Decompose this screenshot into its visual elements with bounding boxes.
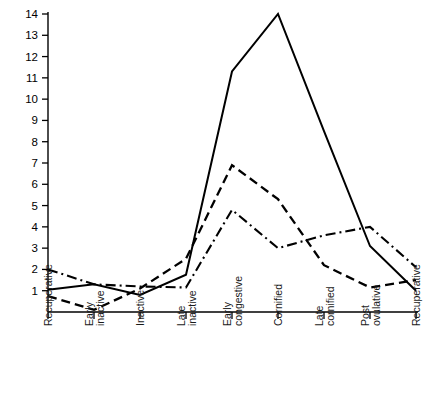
x-tick-label: Recuperative xyxy=(410,264,422,326)
x-tick-label: inactive xyxy=(94,290,106,326)
y-tick-label: 1 xyxy=(32,285,38,297)
y-tick-label: 2 xyxy=(32,263,38,275)
y-tick-label: 5 xyxy=(32,200,38,212)
line-chart-canvas: 1234567891011121314 RecuperativeEarlyina… xyxy=(0,0,430,409)
x-tick-label: ovulative xyxy=(370,284,382,326)
y-tick-label: 13 xyxy=(25,29,38,41)
y-tick-label: 10 xyxy=(25,93,38,105)
x-tick-label: congestive xyxy=(232,276,244,326)
x-tick-label: cornified xyxy=(324,286,336,326)
x-tick-label: Inactive xyxy=(134,290,146,326)
y-tick-label: 12 xyxy=(25,51,38,63)
y-tick-label: 4 xyxy=(32,221,39,233)
x-tick-label: Cornified xyxy=(272,284,284,326)
y-tick-label: 3 xyxy=(32,242,38,254)
y-tick-label: 7 xyxy=(32,157,38,169)
y-tick-label: 8 xyxy=(32,136,38,148)
chart-background xyxy=(0,0,430,409)
chart-figure: 1234567891011121314 RecuperativeEarlyina… xyxy=(0,0,430,409)
x-tick-label: inactive xyxy=(186,290,198,326)
y-tick-label: 11 xyxy=(26,72,38,84)
x-tick-label: Recuperative xyxy=(42,264,54,326)
y-tick-label: 6 xyxy=(32,178,38,190)
y-tick-label: 9 xyxy=(32,114,38,126)
y-tick-label: 14 xyxy=(25,8,38,20)
